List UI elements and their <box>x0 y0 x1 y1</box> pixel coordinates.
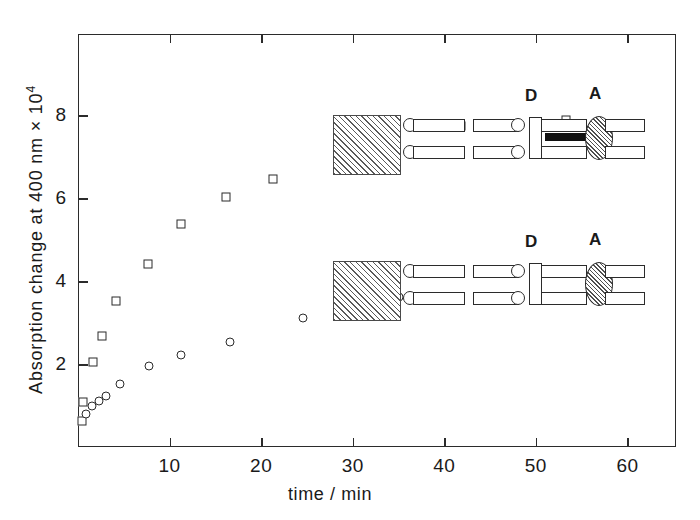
rod-segment <box>541 119 587 132</box>
y-tick <box>78 115 88 117</box>
x-tick-label: 20 <box>250 455 272 477</box>
data-point-square <box>143 259 152 268</box>
hatched-block-icon <box>333 261 401 321</box>
data-point-square <box>269 175 278 184</box>
rod-knob-icon <box>511 118 525 132</box>
rod-segment <box>541 265 587 278</box>
rod-knob-icon <box>511 264 525 278</box>
data-point-square <box>78 398 87 407</box>
plot-area: D A D A <box>78 34 676 447</box>
data-point-square <box>177 219 186 228</box>
inset-acceptor-label: A <box>589 84 602 104</box>
x-axis-title-text: time / min <box>288 484 372 504</box>
data-point-circle <box>144 362 153 371</box>
figure-container: D A D A 102030405060 2468 time <box>0 0 700 520</box>
inset-diagram-lower: D A <box>333 255 609 325</box>
rod-segment <box>541 146 587 159</box>
x-tick-top <box>353 34 355 43</box>
data-point-square <box>88 357 97 366</box>
x-tick-label: 50 <box>525 455 547 477</box>
y-tick-label: 4 <box>44 270 66 292</box>
y-axis-title-text: Absorption change at 400 nm × 10 <box>26 93 46 394</box>
rod-segment <box>413 292 465 305</box>
inset-donor-label: D <box>525 86 538 106</box>
inset-diagram-upper: D A <box>333 109 609 179</box>
rod-segment <box>413 119 465 132</box>
x-tick <box>261 438 263 447</box>
inset-acceptor-label: A <box>589 230 602 250</box>
rod-segment <box>541 292 587 305</box>
rod-segment <box>605 146 645 159</box>
x-tick-top <box>444 34 446 43</box>
rod-segment <box>605 292 645 305</box>
data-point-circle <box>102 392 111 401</box>
x-tick-top <box>261 34 263 43</box>
y-tick <box>78 198 88 200</box>
y-tick <box>78 281 88 283</box>
data-point-circle <box>82 409 91 418</box>
data-point-circle <box>299 314 308 323</box>
y-tick-label: 6 <box>44 187 66 209</box>
rod-segment <box>413 265 465 278</box>
bridge-bar-icon <box>545 133 589 141</box>
x-tick-label: 60 <box>616 455 638 477</box>
data-point-square <box>222 193 231 202</box>
x-tick <box>536 438 538 447</box>
data-point-circle <box>177 350 186 359</box>
y-axis-title: Absorption change at 400 nm × 104 <box>24 30 47 450</box>
data-point-circle <box>226 337 235 346</box>
rod-segment <box>605 119 645 132</box>
x-tick-label: 40 <box>433 455 455 477</box>
x-tick-top <box>536 34 538 43</box>
hatched-block-icon <box>333 115 401 175</box>
inset-donor-label: D <box>525 232 538 252</box>
x-axis-title: time / min <box>0 484 700 505</box>
rod-segment <box>413 146 465 159</box>
rod-knob-icon <box>511 291 525 305</box>
data-point-square <box>111 296 120 305</box>
x-tick-label: 30 <box>342 455 364 477</box>
y-axis-title-exponent: 4 <box>24 85 38 92</box>
x-tick <box>170 438 172 447</box>
y-tick <box>78 364 88 366</box>
x-tick <box>444 438 446 447</box>
x-tick-top <box>170 34 172 43</box>
y-tick-label: 2 <box>44 353 66 375</box>
x-tick <box>353 438 355 447</box>
rod-knob-icon <box>511 145 525 159</box>
x-tick <box>627 438 629 447</box>
data-point-circle <box>116 379 125 388</box>
x-tick-top <box>627 34 629 43</box>
x-tick-label: 10 <box>158 455 180 477</box>
data-point-square <box>97 331 106 340</box>
rod-segment <box>605 265 645 278</box>
y-tick-label: 8 <box>44 104 66 126</box>
